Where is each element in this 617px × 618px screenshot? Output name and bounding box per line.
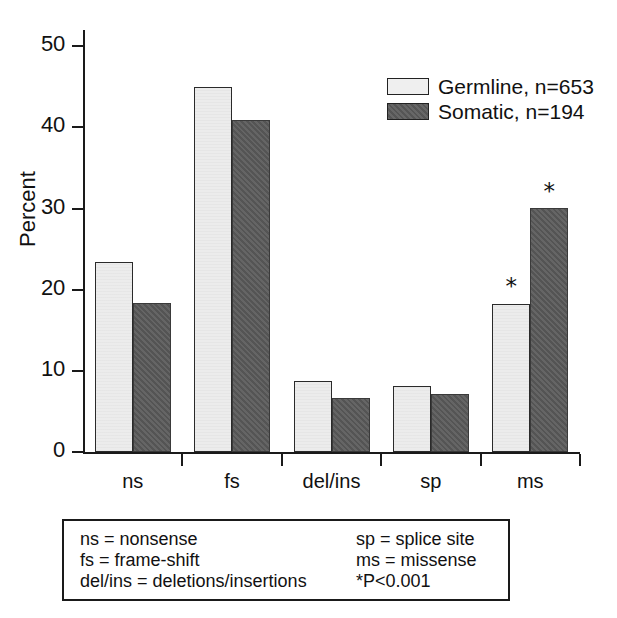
key-line-ms: ms = missense — [356, 550, 477, 571]
bar-del-ins-germline — [294, 381, 332, 452]
y-tick-50 — [72, 45, 83, 47]
bar-fs-germline — [194, 87, 232, 452]
x-tick-1 — [181, 454, 183, 466]
y-tick-label-50: 50 — [41, 31, 65, 57]
x-tick-5 — [579, 454, 581, 466]
key-line-fs: fs = frame-shift — [80, 550, 350, 571]
legend-item-germline: Germline, n=653 — [387, 74, 607, 99]
y-tick-10 — [72, 370, 83, 372]
bar-chart-figure: Percent 01020304050 nsfsdel/insspms ** G… — [0, 0, 617, 618]
abbreviation-key-box: ns = nonsense fs = frame-shift del/ins =… — [62, 519, 510, 601]
bar-ns-germline — [95, 262, 133, 452]
legend-label-germline: Germline, n=653 — [438, 75, 594, 99]
y-tick-label-0: 0 — [53, 437, 65, 463]
key-line-ns: ns = nonsense — [80, 529, 350, 550]
y-tick-label-40: 40 — [41, 112, 65, 138]
key-column-left: ns = nonsense fs = frame-shift del/ins =… — [64, 529, 350, 599]
x-tick-3 — [380, 454, 382, 466]
x-tick-label-ms: ms — [517, 470, 544, 493]
bar-ms-germline — [492, 304, 530, 453]
y-tick-20 — [72, 289, 83, 291]
x-tick-label-fs: fs — [224, 470, 240, 493]
x-tick-4 — [480, 454, 482, 466]
bar-ns-somatic — [133, 303, 171, 452]
legend-item-somatic: Somatic, n=194 — [387, 99, 607, 124]
x-tick-label-sp: sp — [420, 470, 441, 493]
x-axis-line — [83, 452, 580, 454]
bar-del-ins-somatic — [332, 398, 370, 452]
bar-sp-germline — [393, 386, 431, 452]
y-tick-0 — [72, 451, 83, 453]
x-tick-label-ns: ns — [122, 470, 143, 493]
legend-label-somatic: Somatic, n=194 — [438, 100, 585, 124]
significance-star-ms-somatic: * — [544, 180, 556, 203]
bar-ms-somatic — [530, 208, 568, 452]
bar-sp-somatic — [431, 394, 469, 452]
y-tick-label-30: 30 — [41, 194, 65, 220]
x-tick-2 — [281, 454, 283, 466]
significance-star-ms-germline: * — [506, 275, 518, 298]
key-line-pvalue: *P<0.001 — [356, 571, 477, 592]
y-axis-title: Percent — [15, 109, 41, 309]
key-line-delins: del/ins = deletions/insertions — [80, 571, 350, 592]
key-line-sp: sp = splice site — [356, 529, 477, 550]
dark-gray-swatch-icon — [387, 103, 429, 120]
bar-fs-somatic — [232, 120, 270, 452]
series-legend: Germline, n=653 Somatic, n=194 — [387, 74, 607, 124]
x-tick-label-del-ins: del/ins — [303, 470, 361, 493]
y-tick-label-20: 20 — [41, 275, 65, 301]
y-tick-label-10: 10 — [41, 356, 65, 382]
y-tick-40 — [72, 126, 83, 128]
y-tick-30 — [72, 208, 83, 210]
key-column-right: sp = splice site ms = missense *P<0.001 — [350, 529, 477, 599]
light-gray-swatch-icon — [387, 78, 429, 95]
